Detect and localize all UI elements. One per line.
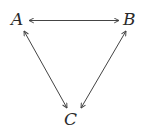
node-b-label: B xyxy=(123,11,136,28)
node-c-label: C xyxy=(64,111,77,128)
node-a-label: A xyxy=(11,11,23,28)
edge-b-c xyxy=(81,31,126,108)
edge-a-c xyxy=(24,31,67,108)
triangle-diagram: A B C xyxy=(0,0,141,131)
